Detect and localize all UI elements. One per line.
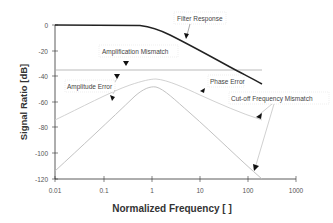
svg-text:1000: 1000 xyxy=(289,187,304,194)
svg-text:-40: -40 xyxy=(39,73,49,80)
svg-text:-20: -20 xyxy=(39,48,49,55)
svg-text:1: 1 xyxy=(150,187,154,194)
svg-text:100: 100 xyxy=(243,187,254,194)
svg-text:0: 0 xyxy=(44,22,48,29)
chart: 0 -20 -40 -60 -80 -100 -120 0.01 0.1 1 1… xyxy=(0,0,333,223)
svg-text:-120: -120 xyxy=(35,176,48,183)
svg-text:Filter Response: Filter Response xyxy=(177,15,223,23)
y-tick-labels: 0 -20 -40 -60 -80 -100 -120 xyxy=(35,22,48,183)
annotation-amplitude-error: Amplitude Error xyxy=(65,74,120,101)
svg-text:-80: -80 xyxy=(39,124,49,131)
annotation-filter-response: Filter Response xyxy=(174,12,226,39)
annotation-amplification-mismatch: Amplification Mismatch xyxy=(99,45,178,66)
annotation-phase-error: Phase Error xyxy=(200,75,246,93)
annotations: Filter Response Amplification Mismatch A… xyxy=(65,12,329,171)
x-axis-title: Normalized Frequency [ ] xyxy=(112,203,231,214)
svg-text:Amplification Mismatch: Amplification Mismatch xyxy=(102,48,169,56)
svg-text:-100: -100 xyxy=(35,150,48,157)
svg-text:0.1: 0.1 xyxy=(99,187,108,194)
svg-text:10: 10 xyxy=(196,187,204,194)
svg-text:Cut-off Frequency Mismatch: Cut-off Frequency Mismatch xyxy=(231,95,313,103)
x-tick-labels: 0.01 0.1 1 10 100 1000 xyxy=(49,187,304,194)
y-axis-title: Signal Ratio [dB] xyxy=(18,64,29,141)
svg-text:Phase Error: Phase Error xyxy=(210,78,246,85)
svg-text:Amplitude Error: Amplitude Error xyxy=(67,83,113,91)
svg-text:0.01: 0.01 xyxy=(49,187,62,194)
annotation-cutoff-mismatch: Cut-off Frequency Mismatch xyxy=(229,92,329,171)
svg-text:-60: -60 xyxy=(39,99,49,106)
